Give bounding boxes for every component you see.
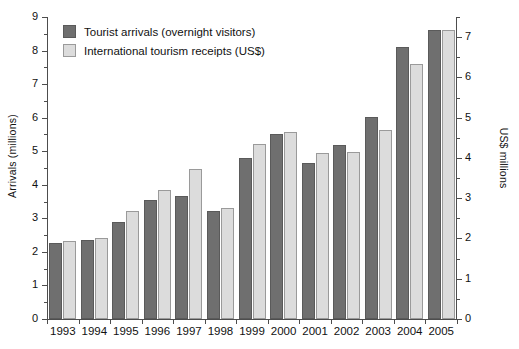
bar-tourism-receipts bbox=[253, 144, 266, 319]
y-left-tick-label: 1 bbox=[0, 278, 46, 290]
x-axis-tick bbox=[205, 320, 206, 324]
bar-tourism-receipts bbox=[126, 211, 139, 319]
bar-tourist-arrivals bbox=[333, 145, 346, 319]
legend-label: International tourism receipts (US$) bbox=[84, 45, 265, 57]
y-right-tick-major bbox=[457, 77, 462, 78]
x-axis-tick bbox=[457, 320, 458, 324]
bar-tourism-receipts bbox=[379, 130, 392, 319]
y-left-tick-label: 7 bbox=[0, 77, 46, 89]
y-left-tick-label: 6 bbox=[0, 111, 46, 123]
y-left-tick-minor bbox=[44, 202, 47, 203]
bar-tourist-arrivals bbox=[112, 222, 125, 319]
bar-tourism-receipts bbox=[95, 238, 108, 319]
y-right-tick-label: 1 bbox=[465, 272, 505, 284]
x-axis-tick bbox=[331, 320, 332, 324]
legend-item: Tourist arrivals (overnight visitors) bbox=[63, 22, 265, 41]
x-axis-tick bbox=[394, 320, 395, 324]
y-right-tick-label: 2 bbox=[465, 231, 505, 243]
y-left-tick-minor bbox=[44, 235, 47, 236]
bar-tourism-receipts bbox=[442, 30, 455, 319]
legend-label: Tourist arrivals (overnight visitors) bbox=[84, 26, 255, 38]
plot-area: 0123456789 01234567 19931994199519961997… bbox=[47, 17, 457, 320]
y-right-tick-label: 6 bbox=[465, 70, 505, 82]
bar-tourist-arrivals bbox=[239, 158, 252, 319]
y-right-tick-label: 7 bbox=[465, 30, 505, 42]
y-right-tick-label: 4 bbox=[465, 151, 505, 163]
y-axis-right-spine bbox=[456, 17, 457, 320]
y-right-tick-major bbox=[457, 238, 462, 239]
bar-tourist-arrivals bbox=[365, 117, 378, 319]
y-left-tick-minor bbox=[44, 101, 47, 102]
bar-tourist-arrivals bbox=[175, 196, 188, 319]
y-right-tick-minor bbox=[457, 299, 460, 300]
bar-tourist-arrivals bbox=[144, 200, 157, 319]
y-left-tick-minor bbox=[44, 168, 47, 169]
bar-tourist-arrivals bbox=[81, 240, 94, 319]
bar-tourism-receipts bbox=[158, 190, 171, 319]
bar-tourist-arrivals bbox=[207, 211, 220, 319]
x-axis-tick bbox=[47, 320, 48, 324]
legend-swatch-dark bbox=[63, 25, 76, 38]
y-left-tick-label: 8 bbox=[0, 44, 46, 56]
y-left-tick-minor bbox=[44, 269, 47, 270]
bar-chart: Arrivals (millions) US$ millions 0123456… bbox=[0, 0, 519, 349]
y-right-tick-minor bbox=[457, 17, 460, 18]
y-right-tick-minor bbox=[457, 98, 460, 99]
x-axis-tick bbox=[173, 320, 174, 324]
y-left-tick-minor bbox=[44, 67, 47, 68]
bar-tourism-receipts bbox=[410, 64, 423, 319]
y-right-tick-major bbox=[457, 198, 462, 199]
x-axis-tick bbox=[110, 320, 111, 324]
bar-tourism-receipts bbox=[189, 169, 202, 319]
x-axis-tick bbox=[299, 320, 300, 324]
x-axis-spine bbox=[47, 319, 457, 320]
y-right-tick-major bbox=[457, 118, 462, 119]
bar-tourism-receipts bbox=[284, 132, 297, 319]
x-axis-tick bbox=[268, 320, 269, 324]
y-left-tick-label: 2 bbox=[0, 245, 46, 257]
chart-legend: Tourist arrivals (overnight visitors)Int… bbox=[63, 22, 265, 60]
y-left-tick-minor bbox=[44, 302, 47, 303]
y-right-tick-minor bbox=[457, 218, 460, 219]
bar-tourist-arrivals bbox=[396, 47, 409, 319]
x-axis-tick bbox=[79, 320, 80, 324]
y-left-tick-label: 9 bbox=[0, 10, 46, 22]
bar-tourist-arrivals bbox=[302, 163, 315, 319]
y-left-tick-minor bbox=[44, 134, 47, 135]
y-right-tick-label: 3 bbox=[465, 191, 505, 203]
legend-swatch-light bbox=[63, 44, 76, 57]
legend-item: International tourism receipts (US$) bbox=[63, 41, 265, 60]
y-right-tick-minor bbox=[457, 178, 460, 179]
y-right-tick-major bbox=[457, 158, 462, 159]
bar-tourism-receipts bbox=[221, 208, 234, 319]
y-left-tick-label: 4 bbox=[0, 178, 46, 190]
y-right-tick-major bbox=[457, 279, 462, 280]
y-axis-left-spine bbox=[47, 17, 48, 320]
bar-tourist-arrivals bbox=[49, 243, 62, 320]
bar-tourism-receipts bbox=[63, 241, 76, 319]
bar-tourist-arrivals bbox=[428, 30, 441, 319]
y-left-tick-label: 0 bbox=[0, 312, 46, 324]
y-right-tick-label: 0 bbox=[465, 312, 505, 324]
x-axis-tick-label: 2005 bbox=[419, 325, 463, 337]
x-axis-tick bbox=[142, 320, 143, 324]
y-right-tick-minor bbox=[457, 138, 460, 139]
y-left-tick-label: 3 bbox=[0, 211, 46, 223]
x-axis-tick bbox=[362, 320, 363, 324]
bar-tourism-receipts bbox=[347, 152, 360, 319]
y-right-tick-label: 5 bbox=[465, 111, 505, 123]
y-left-tick-label: 5 bbox=[0, 144, 46, 156]
y-left-tick-minor bbox=[44, 34, 47, 35]
x-axis-tick bbox=[236, 320, 237, 324]
y-right-tick-minor bbox=[457, 259, 460, 260]
x-axis-tick bbox=[425, 320, 426, 324]
bar-tourist-arrivals bbox=[270, 134, 283, 319]
bar-tourism-receipts bbox=[316, 153, 329, 319]
y-right-tick-minor bbox=[457, 57, 460, 58]
y-right-tick-major bbox=[457, 37, 462, 38]
